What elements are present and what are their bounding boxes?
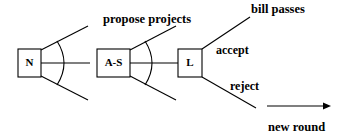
label-new-round: new round — [268, 121, 325, 134]
node-l-label: L — [186, 56, 193, 68]
node-a-s-action-fan — [130, 26, 178, 100]
node-a-s-label: A-S — [105, 56, 123, 68]
node-n-action-fan — [41, 26, 90, 100]
node-n-label: N — [26, 56, 34, 68]
node-a-s-group: A-S — [97, 49, 130, 77]
edge-n-lower — [41, 76, 88, 100]
edge-as-lower — [130, 76, 176, 100]
label-bill-passes: bill passes — [251, 3, 305, 16]
node-n-group: N — [18, 49, 41, 77]
new-round-arrow-head — [323, 103, 331, 110]
node-l-branches — [202, 17, 256, 108]
node-l-group: L — [178, 49, 202, 77]
label-accept: accept — [216, 44, 249, 56]
game-tree-diagram: N A-S L propose project — [0, 0, 341, 140]
label-reject: reject — [230, 80, 259, 92]
edge-n-upper — [41, 26, 88, 50]
new-round-arrow — [267, 103, 331, 110]
edge-as-upper — [130, 26, 176, 50]
label-propose-projects: propose projects — [103, 13, 191, 26]
